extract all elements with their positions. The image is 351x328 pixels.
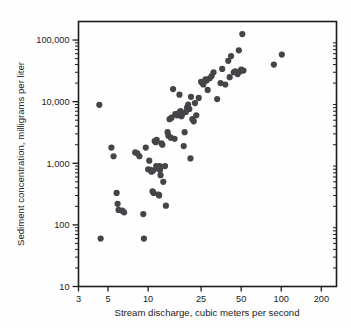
- x-tick-label-10: 10: [143, 294, 153, 304]
- data-point: [181, 143, 187, 149]
- data-point: [163, 203, 169, 209]
- data-point: [156, 192, 162, 198]
- x-axis-label: Stream discharge, cubic meters per secon…: [114, 307, 299, 318]
- data-point: [160, 179, 166, 185]
- data-point: [191, 118, 197, 124]
- data-point: [210, 69, 216, 75]
- data-point: [240, 67, 246, 73]
- data-point: [171, 136, 177, 142]
- data-point: [196, 95, 202, 101]
- data-point: [227, 74, 233, 80]
- data-point: [121, 209, 127, 215]
- y-tick-label-10000: 10,000: [41, 97, 69, 107]
- chart-figure: 35102550100200 101001,00010,000100,000 S…: [0, 0, 351, 328]
- data-point: [182, 129, 188, 135]
- data-point: [279, 52, 285, 58]
- data-point: [115, 201, 121, 207]
- data-point: [157, 167, 163, 173]
- y-tick-label-1000: 1,000: [47, 159, 70, 169]
- x-tick-label-5: 5: [105, 294, 110, 304]
- x-tick-label-50: 50: [236, 294, 246, 304]
- data-point: [222, 81, 228, 87]
- plot-frame: [79, 22, 337, 287]
- x-tick-label-3: 3: [76, 294, 81, 304]
- data-point: [205, 87, 211, 93]
- x-tick-label-200: 200: [314, 294, 329, 304]
- data-point: [146, 158, 152, 164]
- data-point: [176, 92, 182, 98]
- major-tick-group: [73, 40, 322, 291]
- data-point: [143, 144, 149, 150]
- data-points: [96, 31, 285, 242]
- data-point: [186, 106, 192, 112]
- data-point: [192, 100, 198, 106]
- x-tick-label-100: 100: [274, 294, 289, 304]
- data-point: [140, 211, 146, 217]
- data-point: [236, 47, 242, 53]
- data-point: [96, 102, 102, 108]
- data-point: [136, 153, 142, 159]
- data-point: [141, 235, 147, 241]
- scatter-plot: 35102550100200 101001,00010,000100,000 S…: [0, 0, 351, 328]
- data-point: [110, 153, 116, 159]
- x-tick-labels: 35102550100200: [76, 294, 329, 304]
- data-point: [228, 53, 234, 59]
- data-point: [214, 96, 220, 102]
- y-tick-label-10: 10: [59, 282, 69, 292]
- data-point: [239, 31, 245, 37]
- data-point: [159, 142, 165, 148]
- y-tick-label-100: 100: [54, 220, 69, 230]
- x-tick-label-25: 25: [196, 294, 206, 304]
- data-point: [162, 163, 168, 169]
- y-axis-label: Sediment concentration, milligrams per l…: [15, 61, 26, 246]
- y-tick-label-100000: 100,000: [36, 35, 69, 45]
- data-point: [188, 94, 194, 100]
- data-point: [187, 155, 193, 161]
- data-point: [108, 144, 114, 150]
- data-point: [170, 86, 176, 92]
- data-point: [271, 61, 277, 67]
- data-point: [98, 235, 104, 241]
- data-point: [114, 190, 120, 196]
- data-point: [219, 66, 225, 72]
- data-point: [193, 112, 199, 118]
- data-point: [157, 172, 163, 178]
- y-tick-labels: 101001,00010,000100,000: [36, 35, 69, 291]
